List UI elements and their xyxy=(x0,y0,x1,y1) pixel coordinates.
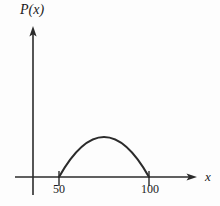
y-axis-label: P(x) xyxy=(20,3,44,17)
x-axis-label: x xyxy=(205,170,211,183)
parabola-curve xyxy=(59,137,149,177)
figure-container: P(x) x 50 100 xyxy=(0,0,220,206)
plot-canvas xyxy=(0,0,220,206)
x-tick-label-100: 100 xyxy=(135,183,165,195)
x-tick-label-50: 50 xyxy=(45,183,73,195)
